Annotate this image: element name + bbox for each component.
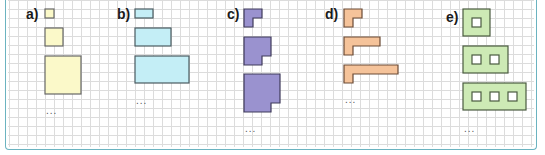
sequence-b-shapes bbox=[135, 9, 189, 83]
sequence-d-shapes bbox=[344, 9, 398, 83]
label-d: d) bbox=[325, 7, 338, 21]
c-shape-1 bbox=[244, 9, 262, 27]
sequence-e-shapes bbox=[463, 9, 526, 110]
sequence-c-shapes bbox=[244, 9, 280, 112]
e-hole bbox=[472, 55, 481, 64]
a-square-3 bbox=[45, 56, 81, 94]
d-shape-2 bbox=[344, 37, 380, 55]
continuation-b: ... bbox=[136, 96, 147, 106]
e-hole bbox=[490, 55, 499, 64]
sequence-a-shapes bbox=[45, 9, 81, 94]
a-square-2 bbox=[45, 28, 63, 46]
b-rect-2 bbox=[135, 28, 171, 46]
label-a: a) bbox=[26, 7, 38, 21]
e-hole bbox=[472, 92, 481, 101]
c-shape-3 bbox=[244, 74, 280, 112]
b-rect-3 bbox=[135, 56, 189, 83]
continuation-d: ... bbox=[345, 95, 356, 105]
continuation-a: ... bbox=[46, 106, 57, 116]
label-c: c) bbox=[227, 7, 239, 21]
label-e: e) bbox=[446, 10, 458, 24]
a-square-1 bbox=[45, 9, 54, 18]
d-shape-1 bbox=[344, 9, 362, 27]
continuation-c: ... bbox=[245, 124, 256, 134]
continuation-e: ... bbox=[464, 124, 475, 134]
e-hole bbox=[490, 92, 499, 101]
e-hole bbox=[508, 92, 517, 101]
d-shape-3 bbox=[344, 65, 398, 83]
c-shape-2 bbox=[244, 37, 271, 65]
e-frame-2 bbox=[463, 46, 508, 73]
e-hole bbox=[472, 18, 481, 27]
b-rect-1 bbox=[135, 9, 153, 18]
label-b: b) bbox=[117, 7, 130, 21]
